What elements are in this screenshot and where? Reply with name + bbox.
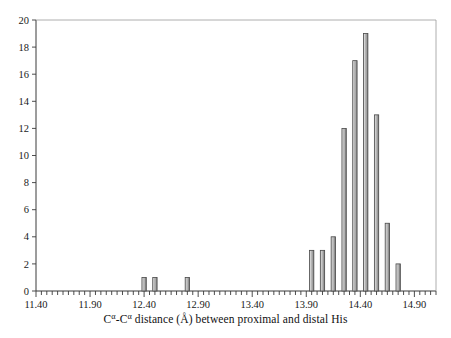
x-tick-label: 12.90 bbox=[186, 299, 210, 310]
y-tick-label: 20 bbox=[19, 15, 30, 26]
y-tick-label: 4 bbox=[24, 231, 30, 242]
histogram-bar bbox=[342, 128, 346, 291]
histogram-bar bbox=[185, 277, 189, 291]
x-tick-label: 11.40 bbox=[24, 299, 47, 310]
histogram-bar bbox=[331, 237, 335, 291]
xlabel-rest: distance (Å) between proximal and distal… bbox=[132, 313, 348, 325]
x-axis-title: Cα-Cα distance (Å) between proximal and … bbox=[0, 313, 451, 325]
y-tick-label: 16 bbox=[19, 69, 30, 80]
y-tick-label: 10 bbox=[19, 150, 30, 161]
histogram-bar bbox=[364, 34, 368, 291]
histogram-bar bbox=[310, 250, 314, 291]
y-tick-label: 0 bbox=[24, 286, 29, 297]
figure-background bbox=[0, 0, 451, 338]
x-tick-label: 11.90 bbox=[78, 299, 101, 310]
histogram-bar bbox=[385, 223, 389, 291]
y-tick-label: 18 bbox=[19, 42, 30, 53]
histogram-bar bbox=[353, 61, 357, 291]
x-tick-label: 13.90 bbox=[294, 299, 318, 310]
y-tick-label: 8 bbox=[24, 177, 29, 188]
histogram-bar bbox=[374, 115, 378, 291]
histogram-bar bbox=[396, 264, 400, 291]
histogram-bar bbox=[153, 277, 157, 291]
x-tick-label: 12.40 bbox=[132, 299, 156, 310]
x-tick-label: 14.40 bbox=[349, 299, 373, 310]
x-tick-label: 13.40 bbox=[240, 299, 264, 310]
y-tick-label: 12 bbox=[19, 123, 30, 134]
x-tick-label: 14.90 bbox=[403, 299, 427, 310]
histogram-bar bbox=[320, 250, 324, 291]
histogram-figure: 02468101214161820 11.4011.9012.4012.9013… bbox=[0, 0, 451, 338]
y-tick-label: 6 bbox=[24, 204, 29, 215]
histogram-bar bbox=[142, 277, 146, 291]
y-tick-label: 2 bbox=[24, 259, 29, 270]
y-tick-label: 14 bbox=[19, 96, 30, 107]
